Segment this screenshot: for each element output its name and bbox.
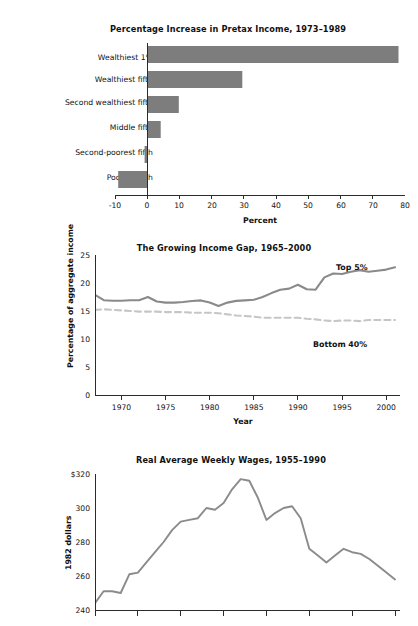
bar-xtick-label-8: 70 — [368, 201, 378, 210]
wages-ytick-label-320: $320 — [56, 470, 90, 479]
gap-chart-plot-area — [95, 255, 400, 407]
chart-title-1: Percentage Increase in Pretax Income, 19… — [0, 24, 418, 34]
bar-wealthiest-1pct — [147, 46, 398, 63]
gap-xtick-label-2000: 2000 — [377, 403, 396, 412]
bar-xtick-label-1: 0 — [145, 201, 150, 210]
chart-title-2: The Growing Income Gap, 1965–2000 — [0, 243, 418, 253]
series-label-top-5-percent: Top 5% — [336, 263, 368, 272]
gap-ytick-label-25: 25 — [72, 251, 90, 260]
figure-real-average-weekly-wages: Real Average Weekly Wages, 1955–1990 198… — [0, 445, 418, 626]
bar-second-wealthiest-fifth — [147, 96, 179, 113]
gap-xtick-label-1980: 1980 — [200, 403, 219, 412]
gap-xtick-label-1970: 1970 — [112, 403, 131, 412]
gap-xtick-label-1975: 1975 — [156, 403, 175, 412]
bar-xtick-label-5: 40 — [271, 201, 281, 210]
bar-xtick-label-6: 50 — [303, 201, 313, 210]
gap-ytick-label-0: 0 — [72, 391, 90, 400]
bar-x-axis-title: Percent — [243, 216, 277, 225]
bar-xtick-label-3: 20 — [207, 201, 217, 210]
bar-xtick-label-7: 60 — [336, 201, 346, 210]
wages-ytick-label-260: 260 — [56, 572, 90, 581]
series-line-bottom-40-percent — [95, 309, 395, 321]
bar-wealthiest-fifth — [147, 71, 242, 88]
figure-growing-income-gap: The Growing Income Gap, 1965–2000 Percen… — [0, 230, 418, 445]
gap-xtick-label-1990: 1990 — [288, 403, 307, 412]
gap-ytick-label-10: 10 — [72, 335, 90, 344]
gap-ytick-label-20: 20 — [72, 279, 90, 288]
wages-ytick-label-300: 300 — [56, 504, 90, 513]
series-line-top-5-percent — [95, 267, 395, 306]
chart-title-3: Real Average Weekly Wages, 1955–1990 — [0, 455, 418, 465]
bar-xtick-label-0: -10 — [109, 201, 121, 210]
bar-xtick-label-2: 10 — [174, 201, 184, 210]
gap-xtick-label-1995: 1995 — [332, 403, 351, 412]
bar-xtick-label-9: 80 — [400, 201, 410, 210]
bar-chart-plot-area — [115, 43, 405, 203]
gap-y-axis-title: Percentage of aggregate income — [66, 224, 75, 368]
gap-ytick-label-5: 5 — [72, 363, 90, 372]
bar-middle-fifth — [147, 121, 161, 138]
wages-ytick-label-280: 280 — [56, 538, 90, 547]
series-label-bottom-40-percent: Bottom 40% — [313, 340, 367, 349]
gap-xtick-label-1985: 1985 — [244, 403, 263, 412]
wages-ytick-label-240: 240 — [56, 606, 90, 615]
series-line-real-weekly-wages — [95, 479, 395, 603]
bar-xtick-label-4: 30 — [239, 201, 249, 210]
gap-ytick-label-15: 15 — [72, 307, 90, 316]
bar-poorest-fifth — [118, 171, 147, 188]
gap-x-axis-title: Year — [233, 417, 252, 426]
wages-chart-plot-area — [95, 474, 400, 624]
figure-pretax-income-increase: Percentage Increase in Pretax Income, 19… — [0, 0, 418, 230]
